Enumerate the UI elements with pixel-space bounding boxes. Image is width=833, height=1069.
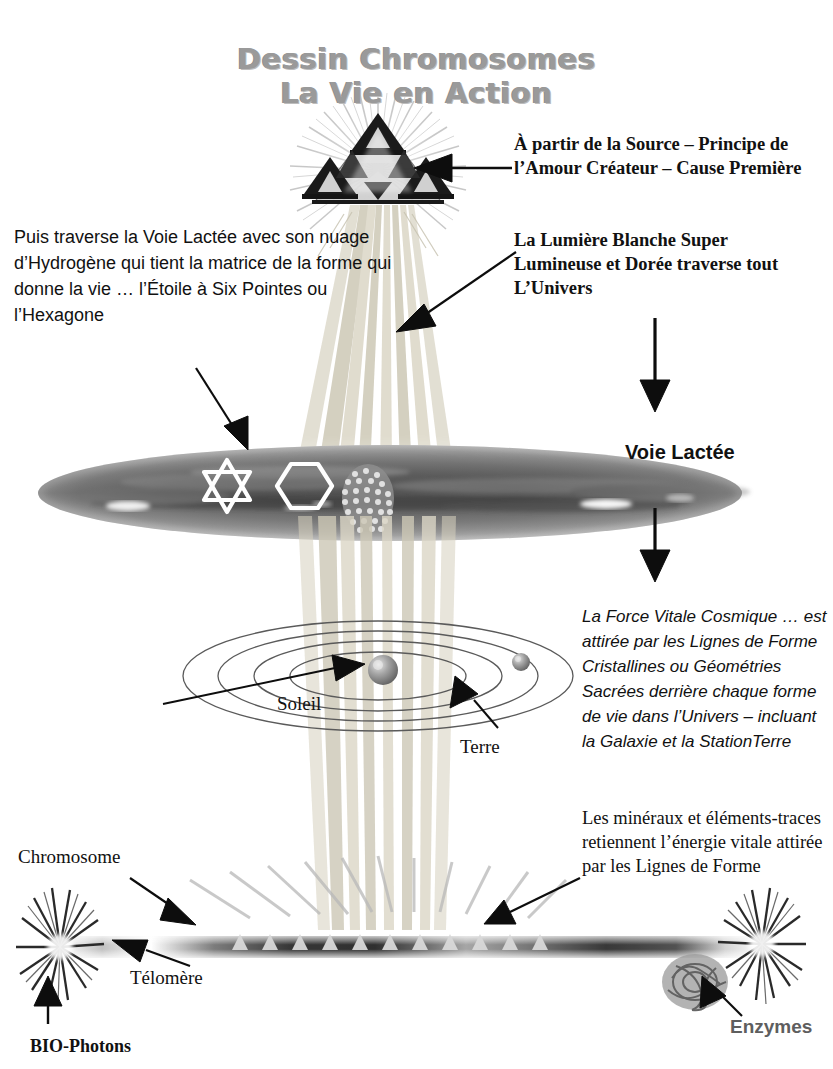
arrow-to-biophotons [34, 976, 62, 1024]
arrow-to-minerals [484, 878, 580, 924]
arrow-down-right-upper [640, 318, 670, 412]
enzyme-cluster-icon [662, 954, 728, 1010]
annotation-source: À partir de la Source – Principe de l’Am… [514, 132, 814, 180]
arrow-to-chromosome [130, 878, 196, 925]
label-biophotons: BIO-Photons [30, 1034, 131, 1058]
arrow-to-galaxy [196, 368, 248, 450]
label-chromosome: Chromosome [18, 845, 120, 869]
diagram-page: Dessin Chromosomes La Vie en Action À pa… [0, 0, 833, 1069]
biophoton-starburst-icon [16, 888, 104, 1004]
annotation-milky-way-description: Puis traverse la Voie Lactée avec son nu… [14, 224, 414, 328]
annotation-cosmic-life-force: La Force Vitale Cosmique … est attirée p… [582, 604, 832, 754]
light-beam-lower [298, 516, 456, 930]
label-enzymes: Enzymes [730, 1016, 812, 1038]
annotation-white-light: La Lumière Blanche Super Lumineuse et Do… [514, 228, 814, 300]
earth-sphere [512, 653, 530, 671]
sun-sphere [368, 655, 398, 685]
crystalline-form-lines [190, 856, 566, 918]
label-soleil: Soleil [277, 692, 321, 716]
label-telomere: Télomère [130, 966, 203, 990]
annotation-minerals: Les minéraux et éléments-traces retienne… [582, 806, 832, 878]
label-voie-lactee: Voie Lactée [625, 441, 735, 464]
label-terre: Terre [460, 735, 500, 759]
arrow-to-earth [450, 676, 498, 728]
